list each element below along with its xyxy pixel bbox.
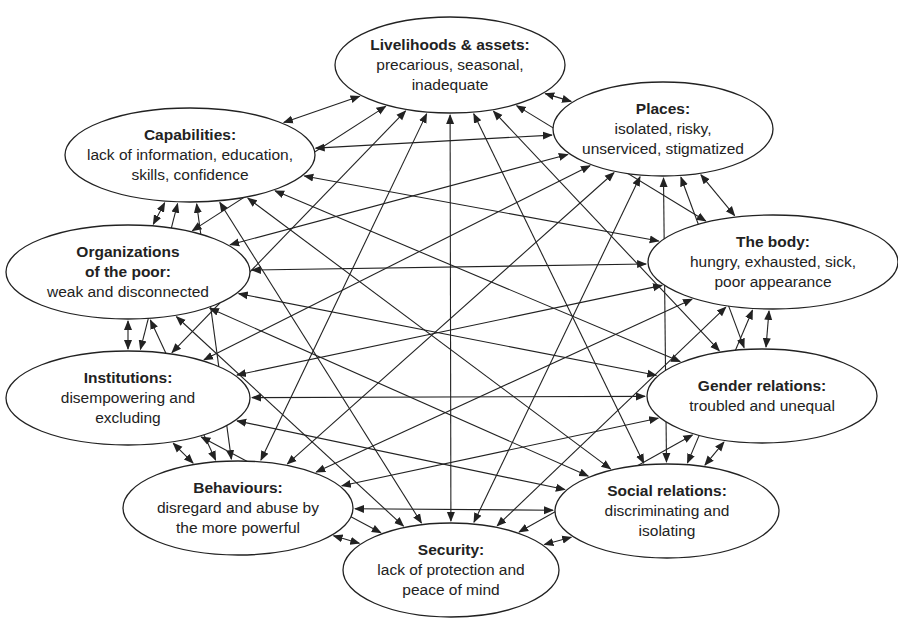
node-title: Institutions: [61,368,195,388]
connection-arrow [544,537,571,544]
node-title: Social relations: [605,481,730,501]
node-desc: hungry, exhausted, sick, [690,252,856,272]
node-the-body: The body: hungry, exhausted, sick, poor … [690,232,856,292]
connection-arrow [239,294,657,376]
connection-arrow [204,166,590,360]
node-desc: skills, confidence [87,165,293,185]
node-desc: discriminating and [605,501,730,521]
node-desc: unserviced, stigmatized [582,139,744,159]
node-desc: peace of mind [377,580,524,600]
node-title-line2: of the poor: [47,262,209,282]
connection-arrow [701,175,735,216]
node-behaviours: Behaviours: disregard and abuse by the m… [157,478,319,538]
node-title: The body: [690,232,856,252]
node-desc: isolated, risky, [582,119,744,139]
node-institutions: Institutions: disempowering and excludin… [61,368,195,428]
node-desc: lack of protection and [377,560,524,580]
node-title: Behaviours: [157,478,319,498]
connection-arrow [173,443,193,463]
node-desc: isolating [605,521,730,541]
connection-arrow [210,308,588,476]
node-desc: poor appearance [690,272,856,292]
node-livelihoods: Livelihoods & assets: precarious, season… [370,35,529,95]
connection-arrow [334,536,360,543]
node-title: Livelihoods & assets: [370,35,529,55]
connection-arrow [153,203,164,224]
node-organizations-of-the-poor: Organizations of the poor: weak and disc… [47,242,209,302]
node-title: Organizations [47,242,209,262]
node-title: Capabilities: [87,125,293,145]
node-title: Security: [377,540,524,560]
node-places: Places: isolated, risky, unserviced, sti… [582,99,744,159]
connection-arrow [766,311,769,347]
node-desc: inadequate [370,75,529,95]
connection-arrow [304,176,658,241]
node-gender-relations: Gender relations: troubled and unequal [689,376,835,416]
node-desc: the more powerful [157,518,319,538]
connection-arrow [275,191,680,362]
node-desc: excluding [61,408,195,428]
node-desc: troubled and unequal [689,396,835,416]
connection-arrow [316,135,552,148]
node-social-relations: Social relations: discriminating and iso… [605,481,730,541]
node-capabilities: Capabilities: lack of information, educa… [87,125,293,185]
node-security: Security: lack of protection and peace o… [377,540,524,600]
connection-arrow [705,442,724,465]
node-desc: lack of information, education, [87,145,293,165]
node-title: Gender relations: [689,376,835,396]
node-desc: precarious, seasonal, [370,55,529,75]
connection-arrow [252,396,645,397]
connection-arrow [284,96,360,122]
node-desc: weak and disconnected [47,282,209,302]
node-desc: disregard and abuse by [157,498,319,518]
connection-arrow [252,264,646,270]
connection-arrow [545,94,571,102]
node-desc: disempowering and [61,388,195,408]
node-title: Places: [582,99,744,119]
